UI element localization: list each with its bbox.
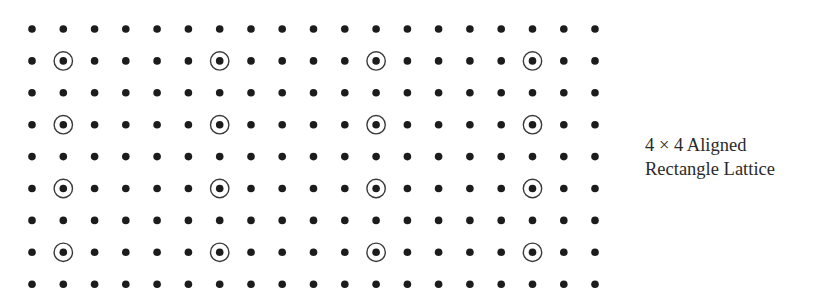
lattice-point [435,185,443,193]
lattice-point [28,217,36,225]
lattice-point [91,121,99,129]
lattice-point [153,121,161,129]
lattice-point [310,217,318,225]
lattice-point [341,217,349,225]
lattice-point [497,25,505,33]
lattice-point [28,121,36,129]
lattice-point [591,121,599,129]
lattice-point [529,280,537,288]
lattice-point [216,25,224,33]
lattice-point [404,89,412,97]
lattice-point [404,249,412,257]
lattice-point [341,25,349,33]
lattice-point [310,185,318,193]
lattice-point [216,185,224,193]
lattice-point [466,185,474,193]
lattice-point [247,25,255,33]
lattice-point [560,57,568,65]
lattice-point [341,57,349,65]
lattice-point [28,25,36,33]
lattice-point [278,249,286,257]
lattice-point [91,57,99,65]
lattice-point [466,89,474,97]
lattice-point [372,89,380,97]
lattice-point [153,185,161,193]
lattice-point [497,185,505,193]
lattice-point [278,280,286,288]
lattice-point [529,249,537,257]
lattice-point [404,25,412,33]
lattice-point [310,249,318,257]
lattice-point [122,153,130,161]
lattice-point [216,249,224,257]
lattice-point [529,25,537,33]
lattice-point [278,89,286,97]
lattice-point [153,280,161,288]
lattice-point [216,89,224,97]
lattice-point [435,121,443,129]
lattice-point [404,217,412,225]
lattice-point [91,89,99,97]
lattice-point [28,249,36,257]
lattice-point [185,249,193,257]
lattice-point [372,185,380,193]
lattice-point [560,185,568,193]
lattice-point [435,217,443,225]
lattice-figure [0,0,640,304]
lattice-point [153,89,161,97]
lattice-point [341,121,349,129]
lattice-point [153,249,161,257]
lattice-point [497,153,505,161]
lattice-point [28,280,36,288]
lattice-point [310,121,318,129]
lattice-point [122,280,130,288]
lattice-point [372,249,380,257]
lattice-point [60,185,68,193]
lattice-point [341,280,349,288]
lattice-point [278,153,286,161]
lattice-point [60,153,68,161]
lattice-point [341,185,349,193]
lattice-point [185,185,193,193]
lattice-point [560,153,568,161]
lattice-point [28,89,36,97]
lattice-point [247,89,255,97]
lattice-point [497,280,505,288]
lattice-point [372,121,380,129]
lattice-point [153,217,161,225]
lattice-point [247,249,255,257]
lattice-point [122,249,130,257]
lattice-point [404,185,412,193]
lattice-point [122,25,130,33]
lattice-point [372,217,380,225]
lattice-point [216,280,224,288]
lattice-point [60,280,68,288]
lattice-point [529,185,537,193]
lattice-point [591,89,599,97]
lattice-point [466,25,474,33]
lattice-point [122,57,130,65]
lattice-point [185,153,193,161]
lattice-point [560,25,568,33]
lattice-point [216,217,224,225]
lattice-point [278,185,286,193]
lattice-point [28,185,36,193]
lattice-point [247,57,255,65]
lattice-point [466,217,474,225]
lattice-point [247,153,255,161]
lattice-point [435,249,443,257]
lattice-point [591,153,599,161]
lattice-point [216,57,224,65]
lattice-point [404,57,412,65]
lattice-point [529,217,537,225]
lattice-point [591,280,599,288]
lattice-point [560,249,568,257]
lattice-point [497,217,505,225]
lattice-point [278,57,286,65]
lattice-point [341,153,349,161]
lattice-point [153,153,161,161]
lattice-point [466,153,474,161]
lattice-point [560,89,568,97]
lattice-point [591,249,599,257]
lattice-point [497,89,505,97]
